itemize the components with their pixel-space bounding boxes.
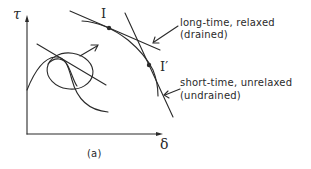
long-time-tangent-line <box>70 11 160 50</box>
y-axis-arrow-icon <box>25 15 29 22</box>
point-I-marker <box>107 26 111 30</box>
short-time-annotation-line2: (undrained) <box>180 90 241 101</box>
long-time-annotation-line1: long-time, relaxed <box>180 17 275 28</box>
panel-label: (a) <box>87 148 102 159</box>
point-I-prime-label: I′ <box>160 59 168 74</box>
short-time-annotation-line1: short-time, unrelaxed <box>180 77 292 88</box>
point-I-label: I <box>101 6 106 21</box>
point-I-prime-marker <box>147 63 151 67</box>
long-time-leader <box>154 26 178 42</box>
x-axis-label: δ <box>160 136 168 152</box>
long-time-annotation-line2: (drained) <box>180 29 228 40</box>
y-axis-label: τ <box>13 6 21 22</box>
